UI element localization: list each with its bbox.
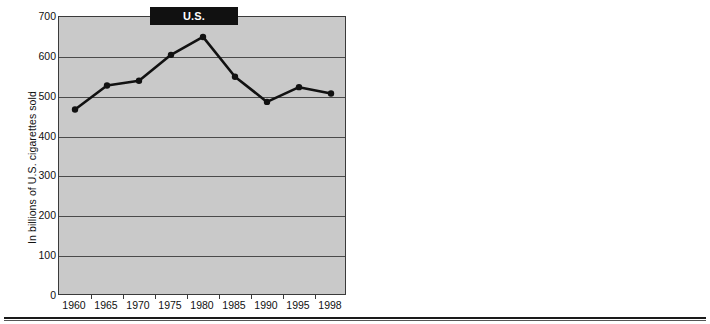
data-point-marker	[296, 84, 302, 90]
y-axis-tick-label: 400	[38, 130, 56, 141]
x-axis-tick-label: 1965	[94, 298, 117, 312]
x-axis-tick-label: 1970	[126, 298, 149, 312]
data-point-marker	[72, 106, 78, 112]
x-axis-tick-label: 1990	[254, 298, 277, 312]
data-point-marker	[136, 78, 142, 84]
data-point-marker	[264, 99, 270, 105]
y-axis-title-us: In billions of U.S. cigarettes sold	[26, 91, 38, 244]
x-axis-tick-label: 1985	[222, 298, 245, 312]
data-point-marker	[200, 34, 206, 40]
data-point-marker	[232, 74, 238, 80]
chart-panel-overseas: In billions of U.S. cigarettes sold 0501…	[360, 0, 710, 324]
x-axis-tick-labels-us: 196019651970197519801985199019951998	[58, 298, 346, 312]
y-axis-tick-label: 600	[38, 51, 56, 62]
y-axis-tick-label: 100	[38, 250, 56, 261]
data-point-marker	[328, 90, 334, 96]
y-axis-tick-label: 300	[38, 170, 56, 181]
two-panel-line-chart-figure: In billions of U.S. cigarettes sold 0100…	[0, 0, 710, 324]
x-axis-tick-label: 1980	[190, 298, 213, 312]
y-axis-tick-label: 700	[38, 11, 56, 22]
series-line	[75, 37, 331, 110]
y-axis-tick-label: 0	[50, 290, 56, 301]
x-axis-tick-label: 1975	[158, 298, 181, 312]
data-point-marker	[104, 82, 110, 88]
data-series	[59, 17, 347, 296]
chart-panel-us: In billions of U.S. cigarettes sold 0100…	[0, 0, 360, 324]
x-axis-tick-label: 1960	[62, 298, 85, 312]
chart-title-plaque-us: U.S.	[150, 7, 238, 25]
footer-divider	[4, 317, 706, 319]
footer-divider-secondary	[4, 320, 706, 321]
y-axis-tick-label: 200	[38, 210, 56, 221]
y-axis-tick-label: 500	[38, 90, 56, 101]
data-point-marker	[168, 52, 174, 58]
x-axis-tick-label: 1998	[318, 298, 341, 312]
x-axis-tick-label: 1995	[286, 298, 309, 312]
plot-area-us	[58, 16, 346, 295]
